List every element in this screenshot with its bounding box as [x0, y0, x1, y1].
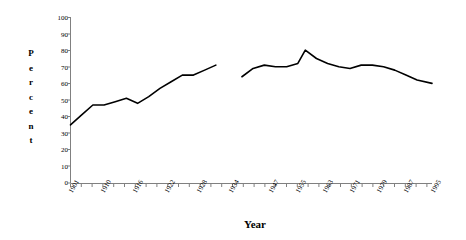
x-tick-label: 1979 — [376, 179, 389, 195]
line-chart: P e r c e n t 100 90 80 70 60 50 40 30 2… — [0, 0, 466, 240]
x-tick-label: 1955 — [295, 179, 308, 195]
x-tick-label: 1922 — [164, 179, 177, 195]
x-tick-label: 1916 — [132, 179, 145, 195]
x-tick-label: 1947 — [268, 179, 281, 195]
x-tick-label: 1934 — [228, 179, 241, 195]
x-axis-tick-labels: 1901 1910 1916 1922 1928 1934 1947 1955 … — [0, 0, 466, 240]
x-axis-title: Year — [0, 218, 466, 230]
x-tick-label: 1987 — [403, 179, 416, 195]
x-tick-label: 1971 — [349, 179, 362, 195]
x-tick-label: 1928 — [196, 179, 209, 195]
x-tick-label: 1963 — [322, 179, 335, 195]
x-tick-label: 1901 — [68, 179, 81, 195]
x-tick-label: 1910 — [100, 179, 113, 195]
x-tick-label: 1995 — [430, 179, 443, 195]
